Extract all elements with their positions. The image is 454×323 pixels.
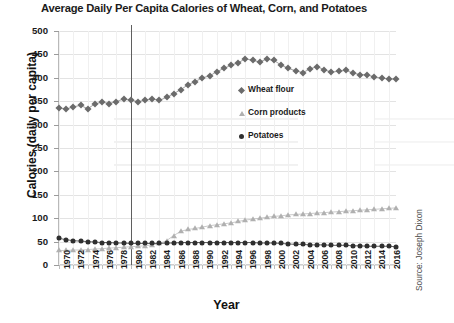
data-point-circle: [207, 240, 212, 245]
data-point-triangle: [386, 206, 392, 211]
x-axis-tick-mark: [260, 265, 261, 269]
data-point-triangle: [321, 210, 327, 215]
legend-item[interactable]: Potatoes: [239, 130, 339, 153]
x-axis-tick-label: 1984: [162, 250, 172, 269]
data-point-circle: [107, 240, 112, 245]
data-point-triangle: [371, 207, 377, 212]
x-axis-tick-mark: [346, 265, 347, 269]
data-point-circle: [264, 241, 269, 246]
x-axis-tick-label: 2010: [349, 250, 359, 269]
data-point-circle: [200, 240, 205, 245]
data-point-circle: [85, 239, 90, 244]
y-axis-tick-mark: [54, 171, 59, 172]
data-point-triangle: [199, 224, 205, 229]
legend-item[interactable]: Wheat flour: [239, 84, 339, 107]
data-point-circle: [358, 243, 363, 248]
data-point-circle: [343, 243, 348, 248]
x-axis-tick-label: 1978: [119, 250, 129, 269]
data-point-triangle: [393, 205, 399, 210]
data-point-circle: [236, 240, 241, 245]
data-point-circle: [394, 244, 399, 249]
y-axis-tick-label: 500: [8, 25, 48, 36]
data-point-circle: [171, 241, 176, 246]
data-point-triangle: [328, 209, 334, 214]
data-point-triangle: [357, 207, 363, 212]
plot-area: [58, 31, 395, 265]
data-point-circle: [315, 242, 320, 247]
data-point-circle: [92, 240, 97, 245]
x-axis-tick-mark: [217, 265, 218, 269]
data-point-triangle: [264, 215, 270, 220]
data-point-triangle: [192, 226, 198, 231]
y-axis-tick-label: 350: [8, 95, 48, 106]
data-point-circle: [286, 241, 291, 246]
data-point-circle: [57, 236, 62, 241]
data-point-triangle: [343, 208, 349, 213]
y-axis-tick-mark: [54, 265, 59, 266]
x-axis-tick-mark: [231, 265, 232, 269]
data-point-triangle: [285, 212, 291, 217]
data-point-circle: [257, 241, 262, 246]
legend-item[interactable]: Corn products: [239, 107, 339, 130]
legend-label: Corn products: [248, 107, 306, 117]
x-axis-tick-label: 1974: [91, 250, 101, 269]
x-axis-tick-mark: [389, 265, 390, 269]
data-point-circle: [178, 240, 183, 245]
x-axis-tick-mark: [145, 265, 146, 269]
data-point-circle: [365, 244, 370, 249]
data-point-triangle: [307, 211, 313, 216]
triangle-marker-icon: [239, 111, 245, 116]
data-point-circle: [193, 240, 198, 245]
legend-label: Wheat flour: [248, 84, 294, 94]
data-point-circle: [243, 240, 248, 245]
x-axis-tick-label: 2016: [392, 250, 402, 269]
data-point-triangle: [242, 217, 248, 222]
data-point-triangle: [185, 227, 191, 232]
data-point-triangle: [171, 233, 177, 238]
diamond-marker-icon: [238, 87, 245, 94]
x-axis-tick-label: 1972: [76, 250, 86, 269]
chart-legend: Wheat flourCorn productsPotatoes: [239, 84, 339, 153]
x-axis-tick-label: 2008: [334, 250, 344, 269]
data-point-triangle: [350, 208, 356, 213]
x-axis-tick-mark: [174, 265, 175, 269]
data-point-circle: [121, 241, 126, 246]
x-axis-tick-label: 2002: [291, 250, 301, 269]
data-point-circle: [143, 241, 148, 246]
data-point-circle: [307, 242, 312, 247]
circle-marker-icon: [239, 134, 244, 139]
y-axis-tick-label: 0: [8, 259, 48, 270]
data-point-triangle: [336, 209, 342, 214]
data-point-triangle: [257, 215, 263, 220]
x-axis-tick-mark: [131, 265, 132, 269]
data-point-triangle: [235, 219, 241, 224]
chart-title: Average Daily Per Capita Calories of Whe…: [0, 2, 408, 14]
x-axis-tick-mark: [303, 265, 304, 269]
x-axis-tick-mark: [73, 265, 74, 269]
y-axis-tick-label: 250: [8, 142, 48, 153]
data-point-circle: [379, 244, 384, 249]
x-axis-tick-label: 2012: [363, 250, 373, 269]
x-axis-tick-mark: [331, 265, 332, 269]
data-point-circle: [78, 239, 83, 244]
x-axis-tick-mark: [102, 265, 103, 269]
x-axis-tick-label: 1998: [263, 250, 273, 269]
x-axis-tick-mark: [188, 265, 189, 269]
data-point-circle: [114, 241, 119, 246]
y-axis-tick-mark: [54, 218, 59, 219]
data-point-circle: [186, 240, 191, 245]
data-point-triangle: [178, 229, 184, 234]
x-axis-tick-mark: [245, 265, 246, 269]
x-axis-tick-mark: [202, 265, 203, 269]
data-point-circle: [71, 238, 76, 243]
data-point-circle: [135, 241, 140, 246]
y-axis-tick-mark: [54, 125, 59, 126]
data-point-triangle: [364, 207, 370, 212]
y-axis-tick-mark: [54, 195, 59, 196]
y-axis-tick-label: 300: [8, 119, 48, 130]
x-axis-tick-label: 2000: [277, 250, 287, 269]
data-point-circle: [214, 240, 219, 245]
data-point-triangle: [314, 210, 320, 215]
y-axis-tick-label: 50: [8, 236, 48, 247]
